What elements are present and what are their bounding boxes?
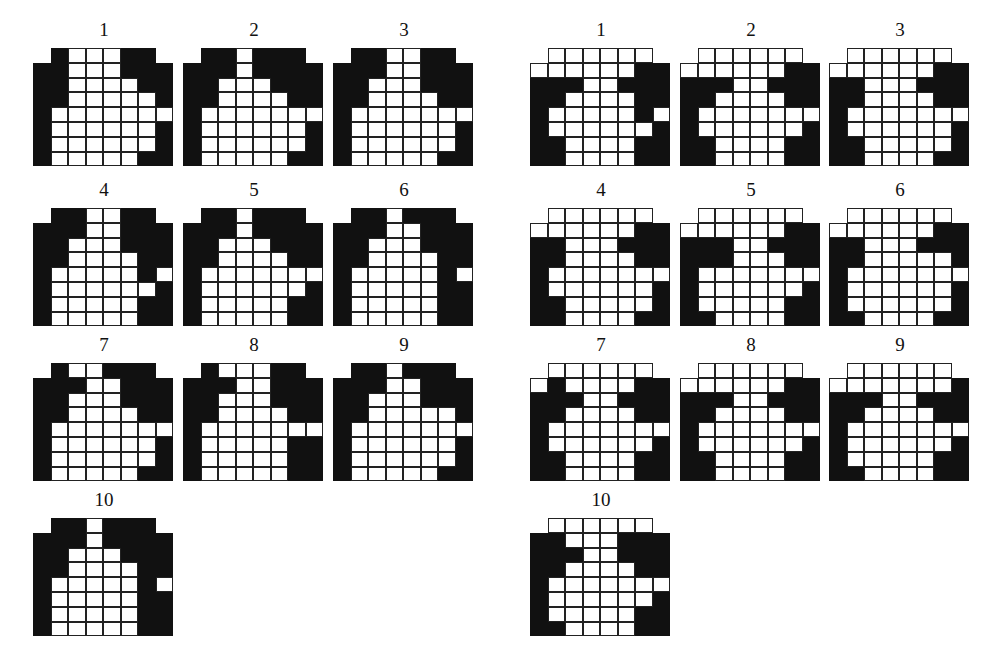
panel-label: 8 bbox=[680, 335, 822, 355]
empty-cell bbox=[86, 297, 104, 312]
filled-cell bbox=[51, 518, 69, 533]
empty-cell bbox=[899, 78, 917, 93]
empty-cell bbox=[236, 208, 254, 223]
empty-cell bbox=[51, 467, 69, 482]
empty-cell bbox=[565, 422, 583, 437]
filled-cell bbox=[438, 282, 456, 297]
empty-cell bbox=[733, 152, 751, 167]
empty-cell bbox=[253, 78, 271, 93]
filled-cell bbox=[456, 122, 474, 137]
filled-cell bbox=[530, 92, 548, 107]
filled-cell bbox=[156, 467, 174, 482]
filled-cell bbox=[156, 252, 174, 267]
filled-cell bbox=[680, 282, 698, 297]
empty-cell bbox=[600, 208, 618, 223]
filled-cell bbox=[829, 137, 847, 152]
filled-cell bbox=[530, 607, 548, 622]
empty-cell bbox=[768, 267, 786, 282]
filled-cell bbox=[306, 152, 324, 167]
empty-cell bbox=[882, 63, 900, 78]
empty-cell bbox=[733, 238, 751, 253]
filled-cell bbox=[351, 363, 369, 378]
empty-cell bbox=[750, 78, 768, 93]
empty-cell bbox=[715, 122, 733, 137]
empty-cell bbox=[288, 282, 306, 297]
empty-cell bbox=[121, 607, 139, 622]
empty-cell bbox=[530, 223, 548, 238]
filled-cell bbox=[785, 378, 803, 393]
empty-cell bbox=[618, 312, 636, 327]
empty-cell bbox=[600, 393, 618, 408]
filled-cell bbox=[934, 393, 952, 408]
panel-label: 5 bbox=[183, 180, 325, 200]
filled-cell bbox=[934, 312, 952, 327]
filled-cell bbox=[421, 238, 439, 253]
empty-cell bbox=[565, 63, 583, 78]
empty-cell bbox=[768, 122, 786, 137]
empty-cell bbox=[733, 378, 751, 393]
empty-cell bbox=[899, 393, 917, 408]
filled-cell bbox=[51, 208, 69, 223]
empty-cell bbox=[803, 107, 821, 122]
empty-cell bbox=[68, 107, 86, 122]
empty-cell bbox=[733, 437, 751, 452]
filled-cell bbox=[51, 48, 69, 63]
empty-cell bbox=[86, 548, 104, 563]
empty-cell bbox=[803, 267, 821, 282]
empty-cell bbox=[236, 467, 254, 482]
empty-cell bbox=[715, 137, 733, 152]
empty-cell bbox=[351, 452, 369, 467]
empty-cell bbox=[103, 422, 121, 437]
filled-cell bbox=[548, 378, 566, 393]
empty-cell bbox=[917, 152, 935, 167]
empty-cell bbox=[306, 422, 324, 437]
filled-cell bbox=[952, 467, 970, 482]
filled-cell bbox=[456, 312, 474, 327]
empty-cell bbox=[548, 577, 566, 592]
empty-cell bbox=[51, 607, 69, 622]
empty-cell bbox=[768, 363, 786, 378]
empty-cell bbox=[583, 437, 601, 452]
empty-cell bbox=[600, 452, 618, 467]
filled-cell bbox=[156, 238, 174, 253]
empty-cell bbox=[934, 437, 952, 452]
empty-cell bbox=[600, 282, 618, 297]
empty-cell bbox=[750, 393, 768, 408]
filled-cell bbox=[456, 393, 474, 408]
filled-cell bbox=[530, 622, 548, 637]
filled-cell bbox=[218, 63, 236, 78]
empty-cell bbox=[86, 607, 104, 622]
empty-cell bbox=[68, 312, 86, 327]
empty-cell bbox=[253, 467, 271, 482]
empty-cell bbox=[218, 122, 236, 137]
filled-cell bbox=[934, 92, 952, 107]
empty-cell bbox=[368, 452, 386, 467]
empty-cell bbox=[864, 378, 882, 393]
empty-cell bbox=[733, 63, 751, 78]
empty-cell bbox=[565, 607, 583, 622]
empty-cell bbox=[600, 607, 618, 622]
filled-cell bbox=[456, 152, 474, 167]
empty-cell bbox=[386, 267, 404, 282]
empty-cell bbox=[51, 152, 69, 167]
empty-cell bbox=[121, 152, 139, 167]
empty-cell bbox=[288, 122, 306, 137]
filled-cell bbox=[635, 533, 653, 548]
empty-cell bbox=[121, 577, 139, 592]
empty-cell bbox=[583, 107, 601, 122]
panel-label: 8 bbox=[183, 335, 325, 355]
empty-cell bbox=[882, 267, 900, 282]
empty-cell bbox=[864, 437, 882, 452]
empty-cell bbox=[600, 562, 618, 577]
filled-cell bbox=[438, 208, 456, 223]
empty-cell bbox=[715, 467, 733, 482]
empty-cell bbox=[715, 363, 733, 378]
empty-cell bbox=[635, 282, 653, 297]
filled-cell bbox=[156, 592, 174, 607]
empty-cell bbox=[403, 452, 421, 467]
panel-label: 6 bbox=[829, 180, 971, 200]
empty-cell bbox=[864, 107, 882, 122]
filled-cell bbox=[829, 467, 847, 482]
empty-cell bbox=[218, 407, 236, 422]
filled-cell bbox=[351, 78, 369, 93]
